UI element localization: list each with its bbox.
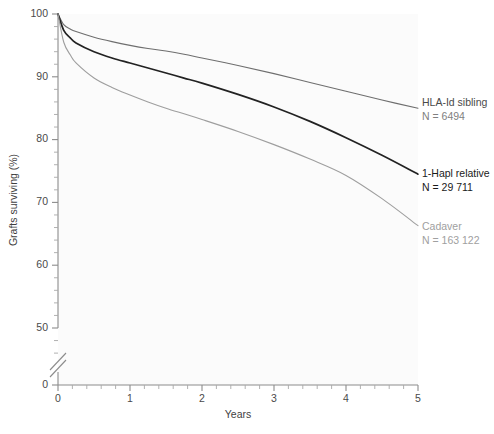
x-tick-label-4: 4: [343, 392, 349, 404]
y-tick-label-90: 90: [36, 70, 48, 82]
annotation-n-cadaver: N = 163 122: [422, 234, 480, 246]
annotation-n-1-hapl-relative: N = 29 711: [422, 181, 473, 193]
x-tick-label-3: 3: [271, 392, 277, 404]
annotation-label-hla-id-sibling: HLA-Id sibling: [422, 96, 488, 108]
annotation-label-1-hapl-relative: 1-Hapl relative: [422, 167, 490, 179]
y-axis-title: Grafts surviving (%): [7, 154, 19, 246]
plot-area-background: [58, 14, 418, 385]
x-tick-label-5: 5: [415, 392, 421, 404]
graft-survival-line-chart: 1009080706050 012345 0 HLA-Id siblingN =…: [0, 0, 494, 434]
chart-figure: 1009080706050 012345 0 HLA-Id siblingN =…: [0, 0, 494, 434]
annotation-label-cadaver: Cadaver: [422, 220, 462, 232]
y-tick-label-100: 100: [30, 7, 48, 19]
y-tick-label-80: 80: [36, 132, 48, 144]
y-tick-label-break: 0: [42, 378, 48, 390]
y-tick-label-70: 70: [36, 195, 48, 207]
y-tick-label-60: 60: [36, 258, 48, 270]
x-tick-label-2: 2: [199, 392, 205, 404]
x-tick-label-1: 1: [127, 392, 133, 404]
x-axis-title: Years: [225, 408, 251, 420]
annotation-n-hla-id-sibling: N = 6494: [422, 110, 465, 122]
x-tick-label-0: 0: [55, 392, 61, 404]
y-tick-label-50: 50: [36, 321, 48, 333]
